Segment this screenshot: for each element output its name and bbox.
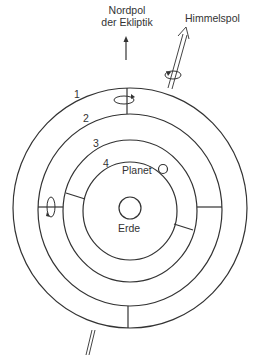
celestial-axis-top-line-a	[168, 34, 183, 88]
celestial-axis-bottom-line-b	[89, 330, 95, 355]
axis-connector-3-4-right	[174, 224, 193, 230]
ecliptic-pole-arrowhead-icon	[124, 36, 129, 42]
celestial-pole-arrowhead-icon	[178, 27, 189, 39]
sphere-1-label: 1	[74, 88, 80, 100]
planet-label: Planet	[122, 164, 152, 176]
sphere-3-label: 3	[93, 137, 99, 149]
rotation-arrowhead-top-right-icon	[166, 71, 171, 76]
sphere-4-outline	[83, 162, 177, 260]
sphere-4-label: 4	[103, 157, 109, 169]
diagram-canvas	[0, 0, 260, 359]
celestial-axis-top-line-b	[172, 35, 187, 89]
planet-circle	[159, 165, 168, 174]
sphere-1-outline	[13, 88, 247, 328]
sphere-2-label: 2	[83, 112, 89, 124]
ecliptic-pole-label-line1: Nordpol	[96, 4, 158, 16]
celestial-axis-bottom-line-a	[86, 330, 92, 355]
ecliptic-pole-label: Nordpol der Ekliptik	[96, 4, 158, 28]
axis-connector-3-4-left	[66, 193, 85, 199]
ecliptic-pole-label-line2: der Ekliptik	[96, 16, 158, 28]
celestial-pole-label: Himmelspol	[185, 12, 240, 24]
earth-label: Erde	[118, 222, 140, 234]
sphere-2-outline	[38, 114, 222, 306]
earth-circle	[119, 197, 141, 219]
